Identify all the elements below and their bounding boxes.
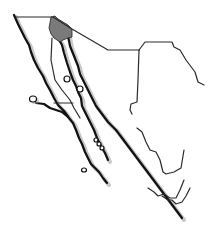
island-tiburon (77, 86, 83, 92)
island-small-1 (94, 138, 98, 142)
mainland-coast-shadow (70, 38, 184, 220)
island-angel-de-la-guarda (64, 76, 70, 82)
sonora-chihuahua-border (130, 50, 139, 114)
sinaloa-durango-border (148, 180, 184, 198)
map (0, 0, 214, 226)
mainland-coastline (68, 36, 182, 218)
island-small-4 (82, 168, 87, 172)
island-cedros (30, 96, 37, 102)
island-small-2 (97, 142, 101, 146)
us-border-east (139, 42, 204, 85)
island-small-3 (100, 146, 104, 150)
us-border (15, 17, 139, 50)
